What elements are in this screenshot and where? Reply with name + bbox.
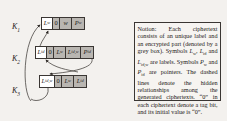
ciphertext-tag-bit: 0 xyxy=(47,47,54,58)
ciphertext-pointer-cell: Pw xyxy=(72,18,84,29)
ciphertext-tag-bit: 0 xyxy=(55,76,62,87)
ciphertext-encrypted-cell: w xyxy=(60,18,72,29)
ciphertext-encrypted-cell: Lid,w xyxy=(66,47,81,58)
arrow-row2-to-row1 xyxy=(40,31,48,46)
encrypted-sub: w xyxy=(68,79,71,83)
pointer-sub: w xyxy=(79,21,82,25)
encrypted-sub: id xyxy=(80,79,83,83)
tag-bit-value: 0 xyxy=(49,49,52,55)
ciphertext-encrypted-cell: Lid xyxy=(74,76,86,87)
arrow-row2-to-row3 xyxy=(50,59,92,74)
encrypted-sub: id,w xyxy=(71,50,78,54)
ciphertext-encrypted-cell: Lw xyxy=(62,76,74,87)
key-label-k1-sub: 1 xyxy=(17,27,20,33)
key-label-k2: K2 xyxy=(12,54,20,65)
ciphertext-row: Lw 0 w Pw xyxy=(41,17,85,30)
ciphertext-label-cell: Lid xyxy=(36,47,47,58)
key-label-k3-sub: 3 xyxy=(17,91,20,97)
ciphertext-row: Lid,w 0 Lw Lid xyxy=(39,75,87,88)
ciphertext-tag-bit: 0 xyxy=(53,18,60,29)
key-label-k3: K3 xyxy=(12,86,20,97)
ciphertext-pointer-cell: Pid xyxy=(81,47,93,58)
ciphertext-label-cell: Lid,w xyxy=(40,76,55,87)
label-sub: id,w xyxy=(45,79,52,83)
encrypted-text: w xyxy=(64,20,68,26)
notion-box: Notion: Each ciphertext consists of an u… xyxy=(134,22,221,101)
ciphertext-row: Lid 0 Lw Lid,w Pid xyxy=(35,46,94,59)
label-sub: id xyxy=(41,50,44,54)
pointer-sub: id xyxy=(87,50,90,54)
figure-container: K1 K2 K3 xyxy=(0,0,227,121)
notion-heading: Notion: xyxy=(138,25,157,32)
arrow-row3-to-row2 xyxy=(46,60,78,72)
key-label-k2-sub: 2 xyxy=(17,59,20,65)
ciphertext-label-cell: Lw xyxy=(42,18,53,29)
key-label-k1: K1 xyxy=(12,22,20,33)
tag-bit-value: 0 xyxy=(55,20,58,26)
arrow-k3-to-row1 xyxy=(25,25,40,101)
ciphertext-encrypted-cell: Lw xyxy=(54,47,66,58)
ciphertext-diagram: K1 K2 K3 xyxy=(0,0,114,121)
arrow-row3-loop xyxy=(31,88,48,101)
notion-text: Notion: Each ciphertext consists of an u… xyxy=(138,25,218,115)
encrypted-sub: w xyxy=(60,50,63,54)
tag-bit-value: 0 xyxy=(57,78,60,84)
label-sub: w xyxy=(47,21,50,25)
